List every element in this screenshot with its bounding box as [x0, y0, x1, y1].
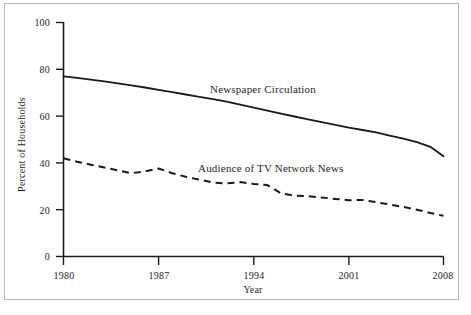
- y-tick-marks: [56, 23, 64, 257]
- y-tick-label-100: 100: [18, 17, 50, 28]
- x-tick-label-2008: 2008: [433, 270, 454, 281]
- chart-plot-area: [0, 0, 471, 315]
- x-tick-label-2001: 2001: [339, 270, 360, 281]
- x-tick-label-1987: 1987: [149, 270, 170, 281]
- y-tick-label-0: 0: [18, 251, 50, 262]
- x-tick-label-1980: 1980: [54, 270, 75, 281]
- x-tick-marks: [64, 257, 444, 266]
- y-axis-title: Percent of Households: [16, 75, 27, 215]
- y-tick-label-80: 80: [18, 64, 50, 75]
- series-label-tv-network-news: Audience of TV Network News: [198, 162, 344, 174]
- figure-container: 100 80 60 40 20 0 1980 1987 1994 2001 20…: [0, 0, 471, 315]
- x-axis-title: Year: [63, 284, 443, 295]
- series-label-newspaper-circulation: Newspaper Circulation: [210, 83, 316, 95]
- x-tick-label-1994: 1994: [244, 270, 265, 281]
